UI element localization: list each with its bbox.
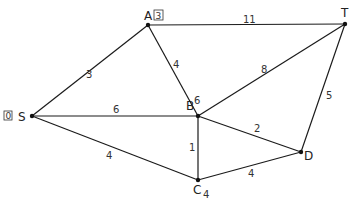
node-b [196, 114, 200, 118]
node-label-d: D [304, 149, 313, 163]
weight-s-c: 4 [106, 150, 112, 161]
weight-s-b: 6 [113, 104, 119, 115]
weight-c-d: 4 [248, 168, 254, 179]
annotation-c: 4 [203, 189, 209, 200]
weight-a-b: 4 [173, 59, 179, 70]
node-label-b: B [186, 99, 194, 113]
node-a [146, 23, 150, 27]
node-t [343, 22, 347, 26]
node-c [196, 178, 200, 182]
edge-d-t [301, 24, 345, 152]
edge-s-c [32, 116, 198, 180]
node-label-c: C [193, 183, 201, 197]
graph-canvas: 3 11 4 6 8 4 1 2 4 5 S 0 A 3 T B 6 D C 4 [0, 0, 350, 201]
node-label-s: S [18, 110, 26, 124]
weight-b-d: 2 [254, 123, 260, 134]
weight-b-t: 8 [261, 64, 267, 75]
weight-a-t: 11 [243, 14, 256, 25]
annotation-a: 3 [156, 11, 162, 21]
node-label-t: T [340, 6, 349, 20]
weight-b-c: 1 [189, 142, 195, 153]
node-label-a: A [144, 9, 153, 23]
node-s [30, 114, 34, 118]
annotation-b: 6 [194, 95, 200, 106]
node-d [299, 150, 303, 154]
edge-b-d [198, 116, 301, 152]
weight-s-a: 3 [86, 69, 92, 80]
edge-b-t [198, 24, 345, 116]
weight-d-t: 5 [326, 90, 332, 101]
annotation-s: 0 [6, 111, 12, 121]
